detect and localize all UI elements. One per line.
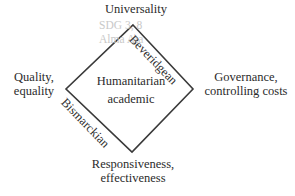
vertex-label-bottom-line-2: effectiveness <box>62 171 204 185</box>
vertex-label-right-line-1: Governance, <box>214 70 278 84</box>
diamond-center-line-2: academic <box>72 90 190 108</box>
watermark-line-1: SDG 3, 8 <box>99 19 142 31</box>
vertex-label-right: Governance, controlling costs <box>198 70 294 98</box>
vertex-label-left-line-2: equality <box>2 84 66 98</box>
vertex-label-left-line-1: Quality, <box>14 70 54 84</box>
diagram-canvas: SDG 3, 8 Alma Ata Universality Quality, … <box>0 0 295 196</box>
vertex-label-right-line-2: controlling costs <box>198 84 294 98</box>
diamond-center-line-1: Humanitarian <box>97 74 166 88</box>
vertex-label-bottom: Responsiveness, effectiveness <box>62 157 204 185</box>
vertex-label-left: Quality, equality <box>2 70 66 98</box>
vertex-label-top-line-1: Universality <box>105 2 167 16</box>
vertex-label-bottom-line-1: Responsiveness, <box>92 157 174 171</box>
vertex-label-top: Universality <box>0 2 272 16</box>
